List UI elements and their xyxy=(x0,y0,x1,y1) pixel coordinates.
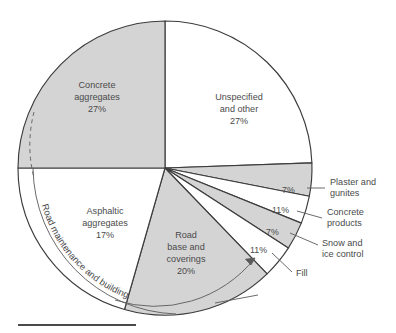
callout-snow-and-ice-control-line2: ice control xyxy=(322,249,363,259)
callout-fill-line1: Fill xyxy=(296,268,308,278)
pie-chart-svg: Unspecified and other 27% Concrete aggre… xyxy=(0,0,396,333)
slice-label-concrete-aggregates-percent: 27% xyxy=(88,104,106,114)
slice-label-unspecified-percent: 27% xyxy=(230,116,248,126)
callout-plaster-and-gunites-line1: Plaster and xyxy=(330,177,376,187)
pct-label-plaster-and-gunites: 7% xyxy=(282,185,295,195)
callout-concrete-products-line2: products xyxy=(327,218,362,228)
callout-concrete-products-line1: Concrete xyxy=(327,207,364,217)
slice-label-road-base-percent: 20% xyxy=(177,266,195,276)
slice-label-concrete-aggregates-line2: aggregates xyxy=(74,92,120,102)
slice-label-concrete-aggregates-line1: Concrete xyxy=(79,80,116,90)
bottom-rule xyxy=(18,324,136,326)
callout-plaster-and-gunites-line2: gunites xyxy=(330,188,360,198)
slice-label-road-base-line3: coverings xyxy=(167,254,206,264)
pie-slices xyxy=(18,21,312,315)
slice-label-asphaltic-line2: aggregates xyxy=(82,218,128,228)
pct-label-fill: 11% xyxy=(250,245,267,255)
pct-label-concrete-products: 11% xyxy=(272,205,289,215)
pct-label-snow-and-ice-control: 7% xyxy=(266,227,279,237)
slice-label-road-base-line1: Road xyxy=(175,230,197,240)
callout-snow-and-ice-control-line1: Snow and xyxy=(322,238,362,248)
pie-chart-figure: Unspecified and other 27% Concrete aggre… xyxy=(0,0,396,333)
slice-label-asphaltic-percent: 17% xyxy=(96,230,114,240)
slice-label-asphaltic-line1: Asphaltic xyxy=(87,206,124,216)
slice-label-road-base-line2: base and xyxy=(167,242,204,252)
slice-label-unspecified-line1: Unspecified xyxy=(215,92,263,102)
slice-label-unspecified-line2: and other xyxy=(220,104,258,114)
